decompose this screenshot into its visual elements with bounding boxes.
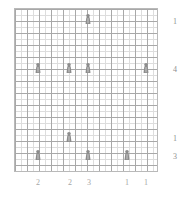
grid-board[interactable] — [14, 8, 158, 172]
pawn-token-icon[interactable] — [65, 63, 73, 74]
pawn-token-icon[interactable] — [34, 63, 42, 74]
column-clue: 3 — [84, 178, 94, 187]
puzzle-root: 1413 22311 — [0, 0, 187, 212]
pawn-token-icon[interactable] — [142, 63, 150, 74]
pawn-token-icon[interactable] — [65, 132, 73, 143]
column-clue: 2 — [33, 178, 43, 187]
column-clue: 1 — [122, 178, 132, 187]
pawn-token-icon[interactable] — [84, 14, 92, 25]
pawn-token-icon[interactable] — [123, 150, 131, 161]
row-clue: 1 — [170, 17, 180, 26]
pawn-token-icon[interactable] — [84, 150, 92, 161]
row-clue: 4 — [170, 65, 180, 74]
column-clue: 1 — [141, 178, 151, 187]
row-clue: 3 — [170, 152, 180, 161]
row-clue: 1 — [170, 134, 180, 143]
pawn-token-icon[interactable] — [34, 150, 42, 161]
pawn-token-icon[interactable] — [84, 63, 92, 74]
column-clue: 2 — [65, 178, 75, 187]
